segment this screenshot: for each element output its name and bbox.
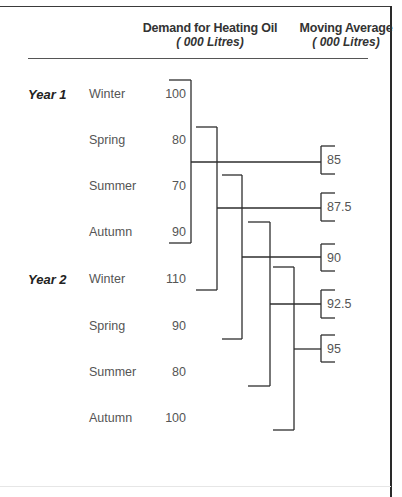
grouping-brackets-diagram: [0, 0, 402, 497]
